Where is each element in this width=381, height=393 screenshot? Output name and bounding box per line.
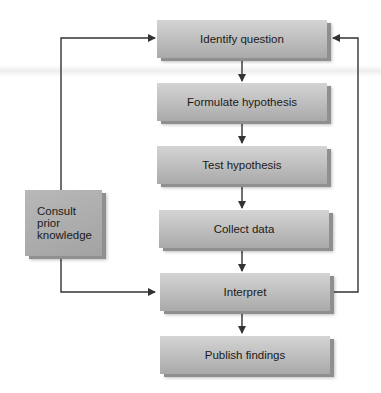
step-label: Test hypothesis: [202, 159, 281, 171]
step-identify-question: Identify question: [157, 20, 327, 58]
step-test-hypothesis: Test hypothesis: [157, 146, 327, 184]
step-interpret: Interpret: [160, 273, 330, 311]
step-collect-data: Collect data: [159, 210, 329, 248]
step-label: Publish findings: [205, 349, 286, 361]
step-label: Interpret: [224, 286, 267, 298]
step-formulate-hypothesis: Formulate hypothesis: [157, 83, 327, 121]
step-publish-findings: Publish findings: [160, 336, 330, 374]
step-label: Identify question: [200, 33, 284, 45]
step-label: Collect data: [214, 223, 275, 235]
side-label: Consult prior knowledge: [37, 205, 92, 241]
side-consult-prior-knowledge: Consult prior knowledge: [25, 190, 102, 256]
step-label: Formulate hypothesis: [187, 96, 297, 108]
